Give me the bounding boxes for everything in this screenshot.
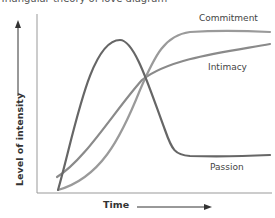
x-arrow-icon — [137, 204, 212, 210]
y-axis-label: Level of intensity — [14, 93, 25, 186]
intimacy-label: Intimacy — [208, 62, 247, 72]
y-arrow-icon — [15, 20, 21, 96]
x-axis-label: Time — [103, 199, 129, 210]
chart-plot — [0, 0, 275, 218]
commitment-label: Commitment — [199, 13, 258, 23]
passion-label: Passion — [210, 162, 244, 172]
